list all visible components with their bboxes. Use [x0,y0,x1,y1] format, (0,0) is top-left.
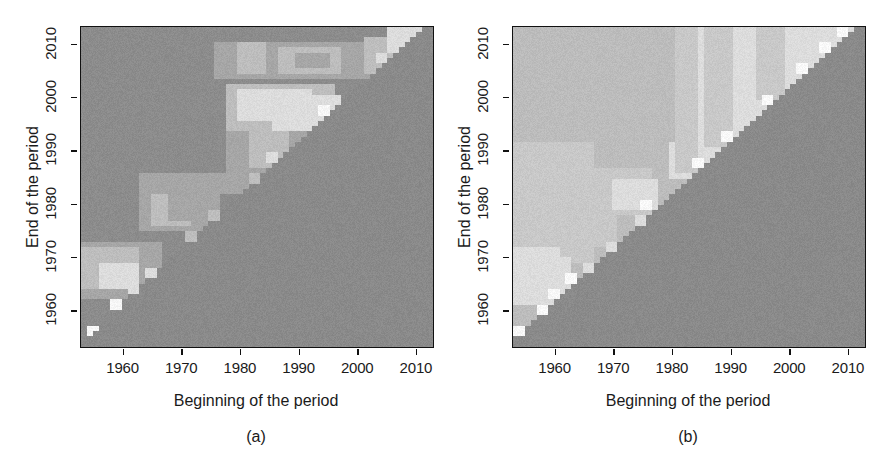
x-tick-label: 1990 [282,359,315,376]
y-tick-label: 1970 [474,234,491,278]
x-tick-label: 1970 [165,359,198,376]
panel-caption-b: (b) [678,428,698,446]
x-tick-mark [240,349,242,355]
x-tick-mark [123,349,125,355]
x-tick-mark [848,349,850,355]
panel-b: 1960197019801990200020101960197019801990… [443,0,885,469]
y-tick-label: 1960 [42,288,59,332]
x-tick-label: 1960 [106,359,139,376]
x-tick-mark [555,349,557,355]
y-tick-mark [503,257,509,259]
y-tick-mark [71,44,77,46]
x-tick-mark [299,349,301,355]
y-tick-mark [503,44,509,46]
x-tick-label: 1960 [538,359,571,376]
y-tick-mark [71,150,77,152]
y-tick-label: 2010 [42,21,59,65]
y-tick-mark [503,150,509,152]
y-axis-title-b: End of the period [456,112,474,262]
x-tick-label: 2000 [773,359,806,376]
y-tick-label: 1990 [42,128,59,172]
x-tick-mark [357,349,359,355]
y-axis-title-a: End of the period [24,112,42,262]
panel-a: 1960197019801990200020101960197019801990… [0,0,443,469]
y-tick-mark [503,204,509,206]
x-tick-label: 1980 [224,359,257,376]
y-tick-label: 1990 [474,128,491,172]
x-tick-mark [731,349,733,355]
x-tick-mark [181,349,183,355]
y-tick-mark [503,97,509,99]
x-tick-label: 2010 [400,359,433,376]
y-tick-mark [71,257,77,259]
y-tick-label: 2010 [474,21,491,65]
y-tick-label: 2000 [42,74,59,118]
x-tick-mark [613,349,615,355]
y-tick-label: 1980 [42,181,59,225]
x-tick-mark [672,349,674,355]
figure-root: 1960197019801990200020101960197019801990… [0,0,885,469]
y-tick-label: 1960 [474,288,491,332]
heatmap-plot-a [80,26,434,348]
x-axis-title-a: Beginning of the period [174,392,339,410]
x-tick-label: 1970 [597,359,630,376]
y-tick-mark [71,310,77,312]
x-tick-label: 2000 [341,359,374,376]
x-tick-mark [789,349,791,355]
x-tick-mark [416,349,418,355]
x-tick-label: 1990 [714,359,747,376]
x-tick-label: 1980 [656,359,689,376]
x-tick-label: 2010 [832,359,865,376]
y-tick-label: 2000 [474,74,491,118]
y-tick-mark [71,204,77,206]
panel-caption-a: (a) [246,428,266,446]
heatmap-canvas-b [513,27,865,347]
x-axis-title-b: Beginning of the period [606,392,771,410]
y-tick-label: 1980 [474,181,491,225]
heatmap-plot-b [512,26,866,348]
y-tick-mark [503,310,509,312]
y-tick-label: 1970 [42,234,59,278]
heatmap-canvas-a [81,27,433,347]
y-tick-mark [71,97,77,99]
